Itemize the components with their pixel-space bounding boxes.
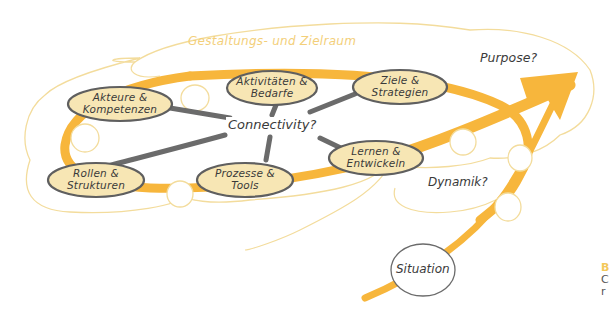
node-lernen-entwickeln[interactable]: Lernen & Entwickeln [329, 145, 423, 169]
node-ziele-strategien[interactable]: Ziele & Strategien [353, 74, 447, 98]
node-prozesse-line1: Prozesse & [197, 167, 293, 179]
dynamik-label: Dynamik? [428, 175, 488, 189]
node-rollen-line2: Strukturen [48, 179, 144, 191]
node-akteure-line1: Akteure & [68, 91, 172, 103]
node-akteure-line2: Kompetenzen [68, 103, 172, 115]
node-prozesse-tools[interactable]: Prozesse & Tools [197, 167, 293, 191]
caption-fragment: B C r [601, 262, 609, 298]
zone-title: Gestaltungs- und Zielraum [188, 34, 356, 48]
node-lernen-line2: Entwickeln [329, 157, 423, 169]
caption-line3: r [601, 286, 609, 298]
node-lernen-line1: Lernen & [329, 145, 423, 157]
cloud-dynamik-curve [394, 188, 500, 213]
center-connectivity-label: Connectivity? [226, 117, 318, 132]
node-rollen-strukturen[interactable]: Rollen & Strukturen [48, 167, 144, 191]
node-prozesse-line2: Tools [197, 179, 293, 191]
node-rollen-line1: Rollen & [48, 167, 144, 179]
situation-label[interactable]: Situation [396, 262, 450, 276]
node-aktivitaeten-bedarfe[interactable]: Aktivitäten & Bedarfe [227, 75, 317, 99]
purpose-label: Purpose? [480, 50, 537, 65]
node-akteure-kompetenzen[interactable]: Akteure & Kompetenzen [68, 91, 172, 115]
node-aktivitaeten-line1: Aktivitäten & [227, 75, 317, 87]
node-ziele-line2: Strategien [353, 86, 447, 98]
node-aktivitaeten-line2: Bedarfe [227, 87, 317, 99]
cloud-inner-curl [131, 62, 160, 77]
node-ziele-line1: Ziele & [353, 74, 447, 86]
